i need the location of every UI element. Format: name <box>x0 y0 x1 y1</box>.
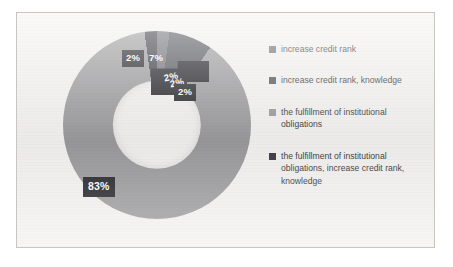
legend-item-label: increase credit rank, knowledge <box>281 74 402 86</box>
legend-swatch-icon <box>269 109 276 116</box>
legend-item: the fulfillment of institutional obligat… <box>269 106 429 131</box>
chart-frame: 83% 2% 7% 2% 2% 2% increase credit rank … <box>16 12 435 248</box>
legend-item-label: the fulfillment of institutional obligat… <box>281 150 429 187</box>
data-label-2d: 2% <box>174 84 196 101</box>
data-label-7: 7% <box>145 50 167 67</box>
legend-swatch-icon <box>269 153 276 160</box>
data-label-2a: 2% <box>122 50 144 67</box>
chart-legend: increase credit rank increase credit ran… <box>269 43 429 206</box>
donut-chart: 83% 2% 7% 2% 2% 2% <box>39 17 267 245</box>
legend-swatch-icon <box>269 77 276 84</box>
legend-item: increase credit rank, knowledge <box>269 74 429 86</box>
legend-item-label: increase credit rank <box>281 43 356 55</box>
data-label-83: 83% <box>83 177 115 197</box>
legend-swatch-icon <box>269 46 276 53</box>
legend-item: increase credit rank <box>269 43 429 55</box>
legend-item-label: the fulfillment of institutional obligat… <box>281 106 429 131</box>
legend-item: the fulfillment of institutional obligat… <box>269 150 429 187</box>
